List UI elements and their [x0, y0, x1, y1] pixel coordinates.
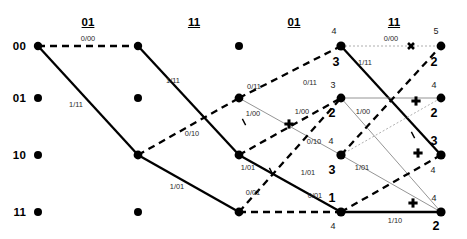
trellis-state-node: [235, 208, 244, 217]
trellis-edge: [138, 46, 239, 155]
plus-marker-icon: [284, 119, 293, 128]
trellis-edge: [138, 98, 239, 155]
state-row-label: 01: [13, 92, 26, 104]
nodes-layer: [34, 41, 446, 216]
trellis-state-node: [437, 42, 446, 51]
state-row-label: 10: [13, 149, 26, 161]
branch-label: 1/00: [295, 107, 309, 116]
path-metric: 4: [330, 221, 335, 231]
state-row-label: 00: [13, 40, 26, 52]
path-metric: 3: [329, 163, 336, 177]
path-metric: 4: [431, 80, 436, 90]
path-metric: 3: [330, 80, 335, 90]
path-metric: 2: [431, 106, 438, 120]
trellis-state-node: [34, 208, 42, 216]
trellis-state-node: [34, 42, 42, 50]
path-metric: 2: [433, 219, 440, 233]
path-metric: 3: [431, 134, 438, 148]
branch-label: 0/10: [185, 129, 199, 138]
trellis-state-node: [436, 150, 445, 159]
trellis-state-node: [134, 94, 142, 102]
branch-label: 0/11: [247, 82, 261, 91]
path-metric: 1: [329, 191, 336, 205]
path-metric: 4: [431, 193, 436, 203]
trellis-state-node: [34, 151, 42, 159]
edges-layer: [38, 46, 441, 212]
trellis-state-node: [336, 207, 345, 216]
branch-label: 1/00: [356, 107, 370, 116]
path-metric: 4: [430, 165, 435, 175]
trellis-state-node: [134, 208, 142, 216]
path-metric: 2: [329, 106, 336, 120]
branch-label: 0/00: [81, 34, 95, 43]
received-symbol-header: 11: [388, 16, 400, 28]
received-symbol-header: 01: [82, 16, 95, 28]
trellis-state-node: [235, 42, 243, 50]
branch-label: 1/10: [388, 216, 402, 225]
plus-marker-icon: [413, 148, 422, 157]
trellis-state-node: [134, 151, 143, 160]
branch-label: 1/01: [301, 168, 315, 177]
path-metric: 5: [433, 26, 438, 36]
edge-hash-mark: [411, 132, 414, 138]
branch-label: 0/00: [384, 34, 398, 43]
branch-label: 0/10: [307, 137, 321, 146]
path-metric: 4: [331, 26, 336, 36]
trellis-state-node: [235, 151, 244, 160]
branch-label: 1/01: [355, 163, 369, 172]
trellis-state-node: [436, 207, 445, 216]
trellis-state-node: [134, 42, 142, 50]
branch-label: 1/01: [241, 163, 255, 172]
branch-label: 0/01: [246, 188, 260, 197]
trellis-state-node: [34, 94, 42, 102]
branch-label: 1/11: [358, 58, 372, 67]
branch-label: 1/11: [166, 76, 180, 85]
trellis-state-node: [337, 94, 346, 103]
branch-label: 0/01: [308, 191, 322, 200]
trellis-state-node: [336, 41, 345, 50]
path-metric: 3: [333, 55, 340, 69]
edge-hash-mark: [242, 119, 245, 125]
trellis-diagram-canvas: 00011011 01110111 0/001/111/110/101/010/…: [0, 0, 467, 239]
plus-marker-icon: [408, 198, 417, 207]
trellis-edge: [138, 155, 239, 212]
trellis-edge: [38, 46, 138, 155]
path-metric: 2: [431, 55, 438, 69]
received-symbol-header: 11: [188, 16, 200, 28]
received-symbol-header: 01: [288, 16, 301, 28]
branch-label: 1/01: [170, 182, 184, 191]
branch-label: 1/00: [246, 109, 260, 118]
path-metric: 4: [328, 136, 333, 146]
state-row-label: 11: [13, 206, 26, 218]
trellis-state-node: [336, 150, 345, 159]
branch-label: 0/11: [303, 78, 317, 87]
branch-label: 1/11: [69, 100, 83, 109]
trellis-state-node: [235, 94, 244, 103]
trellis-state-node: [437, 94, 446, 103]
